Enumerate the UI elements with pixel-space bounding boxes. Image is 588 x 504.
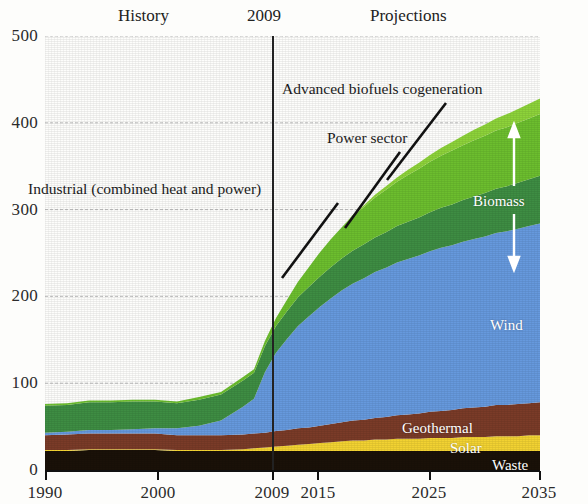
y-tick-0: 0 [29,460,38,480]
projections-header-label: Projections [370,6,447,26]
plot-area [45,36,540,470]
divider-year-label: 2009 [247,6,281,26]
x-tickmark-2009 [272,471,274,480]
history-projection-divider [272,36,274,470]
x-tickmark-2015 [317,471,319,480]
x-tick-label-1990: 1990 [27,483,62,503]
series-label-geothermal: Geothermal [402,420,473,437]
x-axis-line [45,470,540,472]
history-header-label: History [118,6,169,26]
series-label-waste: Waste [492,457,528,474]
series-label-wind: Wind [490,317,523,334]
x-tickmark-2000 [157,471,159,480]
annotation-power-sector: Power sector [327,129,408,147]
series-label-solar: Solar [450,440,482,457]
y-tick-400: 400 [12,113,38,133]
x-tickmark-2035 [539,471,541,480]
x-tick-label-2009: 2009 [254,483,289,503]
y-tick-500: 500 [12,26,38,46]
x-tick-label-2015: 2015 [300,483,335,503]
x-tick-label-2025: 2025 [411,483,446,503]
annotation-advanced-biofuels: Advanced biofuels cogeneration [282,80,483,98]
y-tick-300: 300 [12,200,38,220]
x-tick-label-2035: 2035 [521,483,556,503]
x-tickmark-2025 [429,471,431,480]
y-tick-200: 200 [12,286,38,306]
y-axis-labels: 500 400 300 200 100 0 [0,0,38,504]
x-tickmark-1990 [45,471,47,480]
annotation-industrial-chp: Industrial (combined heat and power) [28,180,261,198]
stacked-area-series [45,36,540,470]
x-tick-label-2000: 2000 [140,483,175,503]
renewable-energy-stacked-area-chart: 500 400 300 200 100 0 1990 2000 2009 201… [0,0,588,504]
series-label-biomass: Biomass [473,193,525,210]
y-tick-100: 100 [12,373,38,393]
